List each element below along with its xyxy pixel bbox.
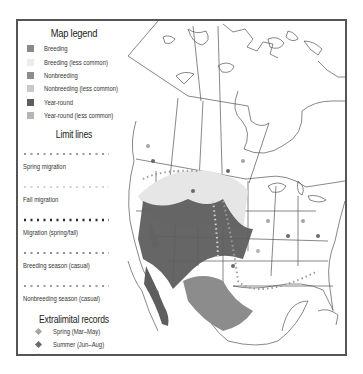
limit-line-breeding-casual: Breeding season (casual) (18, 242, 130, 272)
limit-label: Nonbreeding season (casual) (23, 293, 111, 305)
limit-label: Breeding season (casual) (23, 260, 111, 272)
dotted-line-icon (23, 251, 109, 255)
dotted-line-icon (23, 152, 109, 156)
legend-title: Map legend (26, 27, 121, 39)
extralimital-title: Extralimital records (28, 313, 120, 325)
nonbreeding-mexico-area (183, 276, 253, 331)
legend-label: Summer (Jun–Aug) (53, 340, 104, 349)
legend-item-breeding: Breeding (18, 42, 130, 55)
limit-lines-title: Limit lines (28, 128, 120, 140)
limit-line-nonbreeding-casual: Nonbreeding season (casual) (18, 275, 130, 305)
map-frame: Map legend Breeding Breeding (less commo… (16, 19, 347, 356)
legend-item-year-round: Year-round (18, 96, 130, 109)
legend-label: Nonbreeding (less common) (44, 84, 118, 93)
nonbreeding-swatch-icon (27, 72, 34, 79)
range-legend-items: Breeding Breeding (less common) Nonbreed… (18, 42, 130, 122)
limit-line-spring: Spring migration (18, 143, 130, 173)
limit-label: Migration (spring/fall) (23, 227, 111, 239)
limit-label: Spring migration (23, 161, 111, 173)
breeding-swatch-icon (27, 45, 34, 52)
year-round-swatch-icon (27, 99, 34, 106)
legend-label: Fall (Sep–Nov) (53, 352, 92, 356)
legend-label: Spring (Mar–May) (53, 327, 100, 336)
limit-line-migration: Migration (spring/fall) (18, 209, 130, 239)
legend-item-nonbreeding-less-common: Nonbreeding (less common) (18, 82, 130, 95)
extralimital-summer: Summer (Jun–Aug) (18, 338, 130, 351)
map-legend: Map legend Breeding Breeding (less commo… (18, 21, 130, 354)
year-round-less-common-swatch-icon (27, 112, 34, 119)
legend-label: Breeding (44, 44, 68, 53)
legend-item-breeding-less-common: Breeding (less common) (18, 55, 130, 68)
limit-line-fall: Fall migration (18, 176, 130, 206)
legend-label: Breeding (less common) (44, 58, 108, 67)
dotted-line-icon (23, 185, 109, 189)
summer-marker-icon (35, 341, 42, 348)
legend-item-nonbreeding: Nonbreeding (18, 69, 130, 82)
legend-label: Year-round (44, 98, 73, 107)
extralimital-fall: Fall (Sep–Nov) (18, 350, 130, 356)
spring-marker-icon (35, 328, 42, 335)
nonbreeding-less-common-swatch-icon (27, 85, 34, 92)
dotted-line-icon (23, 284, 109, 288)
legend-label: Nonbreeding (44, 71, 78, 80)
legend-label: Year-round (less common) (44, 111, 113, 120)
breeding-less-common-swatch-icon (27, 59, 34, 66)
extralimital-spring: Spring (Mar–May) (18, 325, 130, 338)
dotted-line-icon (23, 218, 109, 222)
legend-item-year-round-less-common: Year-round (less common) (18, 109, 130, 122)
fall-marker-icon (35, 353, 42, 356)
limit-label: Fall migration (23, 194, 111, 206)
